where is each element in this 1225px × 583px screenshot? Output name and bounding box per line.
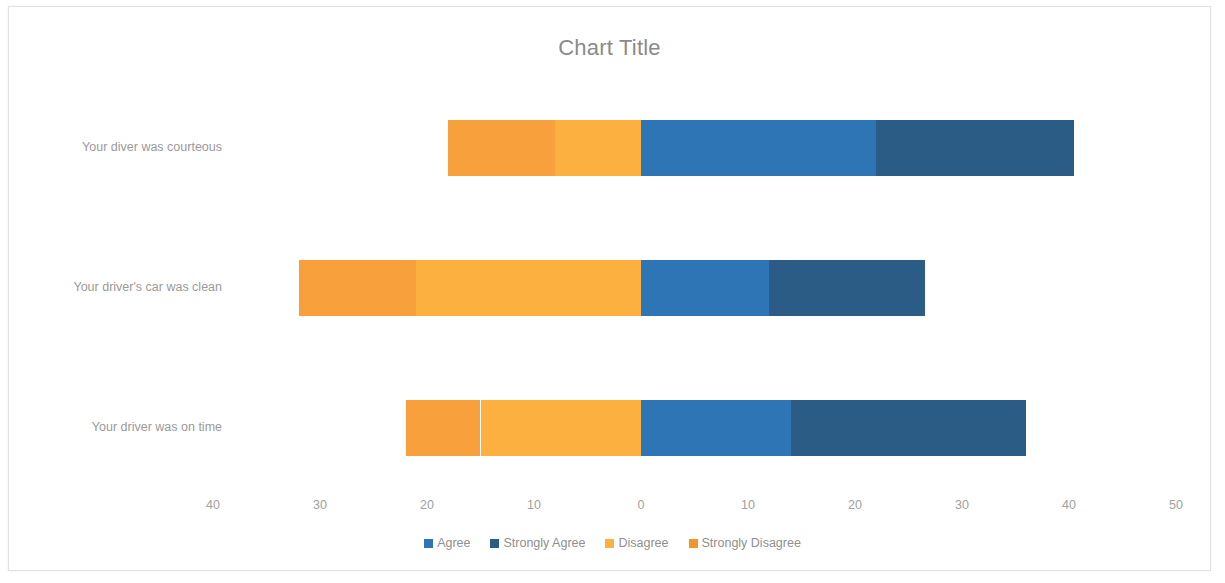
chart-legend: AgreeStrongly AgreeDisagreeStrongly Disa… bbox=[0, 536, 1225, 550]
bar-row[interactable] bbox=[0, 260, 1225, 316]
bar-segment[interactable] bbox=[876, 120, 1074, 176]
axis-tick-label: 50 bbox=[1169, 498, 1183, 512]
axis-tick-label: 40 bbox=[1062, 498, 1076, 512]
bar-segment[interactable] bbox=[406, 400, 481, 456]
bar-row[interactable] bbox=[0, 120, 1225, 176]
axis-tick-label: 10 bbox=[527, 498, 541, 512]
axis-tick-label: 40 bbox=[206, 498, 220, 512]
legend-swatch-icon bbox=[424, 539, 433, 548]
legend-item[interactable]: Strongly Agree bbox=[490, 536, 585, 550]
bar-segment[interactable] bbox=[641, 120, 876, 176]
axis-tick-label: 30 bbox=[313, 498, 327, 512]
bar-segment[interactable] bbox=[555, 120, 641, 176]
bar-segment[interactable] bbox=[481, 400, 642, 456]
bar-segment[interactable] bbox=[769, 260, 924, 316]
legend-swatch-icon bbox=[490, 539, 499, 548]
axis-tick-label: 20 bbox=[848, 498, 862, 512]
legend-item[interactable]: Strongly Disagree bbox=[689, 536, 801, 550]
legend-swatch-icon bbox=[689, 539, 698, 548]
plot-area: Your diver was courteousYour driver's ca… bbox=[0, 95, 1225, 495]
bar-segment[interactable] bbox=[791, 400, 1026, 456]
axis-tick-label: 30 bbox=[955, 498, 969, 512]
x-axis-tick-labels: 4030201001020304050 bbox=[0, 498, 1225, 524]
bar-segment[interactable] bbox=[416, 260, 641, 316]
axis-tick-label: 10 bbox=[741, 498, 755, 512]
chart-title: Chart Title bbox=[9, 35, 1210, 61]
bar-segment[interactable] bbox=[299, 260, 417, 316]
legend-item[interactable]: Disagree bbox=[605, 536, 668, 550]
bar-segment[interactable] bbox=[641, 400, 791, 456]
axis-tick-label: 0 bbox=[638, 498, 645, 512]
bar-segment[interactable] bbox=[641, 260, 769, 316]
legend-label: Disagree bbox=[618, 536, 668, 550]
legend-label: Agree bbox=[437, 536, 470, 550]
legend-swatch-icon bbox=[605, 539, 614, 548]
legend-label: Strongly Disagree bbox=[702, 536, 801, 550]
axis-tick-label: 20 bbox=[420, 498, 434, 512]
legend-item[interactable]: Agree bbox=[424, 536, 470, 550]
bar-row[interactable] bbox=[0, 400, 1225, 456]
legend-label: Strongly Agree bbox=[503, 536, 585, 550]
bar-segment[interactable] bbox=[448, 120, 555, 176]
